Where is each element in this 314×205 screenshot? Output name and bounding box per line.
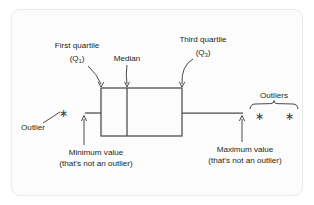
- first-quartile-symbol: (Q1): [70, 54, 85, 64]
- third-quartile-label: Third quartile: [179, 35, 227, 44]
- right-outlier-star-icon-1: ∗: [255, 110, 264, 122]
- first-quartile-leader-line: [88, 66, 101, 84]
- outlier-label: Outlier: [21, 123, 45, 132]
- minimum-value-label-line1: Minimum value: [69, 148, 124, 157]
- maximum-value-label-line2: (that's not an outlier): [208, 156, 282, 165]
- third-quartile-paren: ): [208, 48, 211, 57]
- first-quartile-paren: ): [82, 54, 85, 63]
- minimum-value-label-line2: (that's not an outlier): [59, 159, 133, 168]
- outliers-curly-brace-icon: [250, 101, 298, 109]
- outliers-group-label: Outliers: [260, 91, 288, 100]
- outlier-leader-line: [43, 112, 60, 123]
- first-quartile-arrowhead-icon: [98, 82, 104, 87]
- median-leader-line: [126, 65, 127, 84]
- median-label: Median: [114, 54, 141, 63]
- maximum-value-label-line1: Maximum value: [217, 145, 274, 154]
- left-outlier-star-icon: ∗: [59, 107, 68, 119]
- first-quartile-label: First quartile: [55, 41, 100, 50]
- third-quartile-symbol: (Q3): [196, 48, 211, 58]
- svg-text:(Q1): (Q1): [70, 54, 85, 64]
- box-plot-graphic: [85, 88, 243, 136]
- box-rectangle: [101, 88, 182, 136]
- third-quartile-q: (Q: [196, 48, 205, 57]
- third-quartile-leader-line: [182, 59, 193, 84]
- first-quartile-q: (Q: [70, 54, 79, 63]
- right-outlier-star-icon-2: ∗: [285, 110, 294, 122]
- svg-text:(Q3): (Q3): [196, 48, 211, 58]
- box-plot-diagram: ∗ ∗ ∗ First quartile (Q1) Median Third q…: [0, 0, 314, 205]
